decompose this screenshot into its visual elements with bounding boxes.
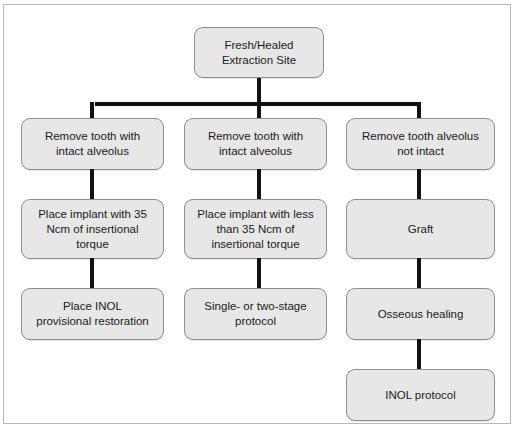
- connector-col1-r1-r2: [90, 169, 94, 201]
- node-label: Remove tooth with intact alveolus: [30, 129, 155, 159]
- node-label: Place implant with less than 35 Ncm of i…: [193, 207, 318, 252]
- node-label: INOL protocol: [355, 388, 486, 403]
- connector-col2-r1-r2: [257, 169, 261, 201]
- node-label: Place INOL provisional restoration: [30, 299, 155, 329]
- node-col1-remove-tooth-intact-alveolus[interactable]: Remove tooth with intact alveolus: [21, 118, 164, 170]
- node-col3-osseous-healing[interactable]: Osseous healing: [346, 288, 495, 340]
- node-label: Osseous healing: [355, 307, 486, 322]
- node-col2-remove-tooth-intact-alveolus[interactable]: Remove tooth with intact alveolus: [184, 118, 327, 170]
- node-fresh-healed-extraction-site[interactable]: Fresh/Healed Extraction Site: [194, 27, 324, 78]
- node-col1-place-implant-35-ncm[interactable]: Place implant with 35 Ncm of insertional…: [21, 199, 164, 259]
- node-col3-remove-tooth-alveolus-not-intact[interactable]: Remove tooth alveolus not intact: [346, 118, 495, 170]
- node-col3-graft[interactable]: Graft: [346, 199, 495, 259]
- node-label: Graft: [355, 222, 486, 237]
- connector-col1-r2-r3: [90, 258, 94, 290]
- node-label: Fresh/Healed Extraction Site: [203, 38, 315, 68]
- node-col1-place-inol-provisional-restoration[interactable]: Place INOL provisional restoration: [21, 288, 164, 340]
- connector-col2-r2-r3: [257, 258, 261, 290]
- node-col2-single-or-two-stage-protocol[interactable]: Single- or two-stage protocol: [184, 288, 327, 340]
- node-label: Single- or two-stage protocol: [193, 299, 318, 329]
- node-label: Remove tooth with intact alveolus: [193, 129, 318, 159]
- node-label: Remove tooth alveolus not intact: [355, 129, 486, 159]
- connector-col3-r3-r4: [417, 339, 421, 371]
- node-col3-inol-protocol[interactable]: INOL protocol: [346, 369, 495, 421]
- connector-col3-r2-r3: [417, 258, 421, 290]
- connector-col3-r1-r2: [417, 169, 421, 201]
- node-col2-place-implant-less-than-35-ncm[interactable]: Place implant with less than 35 Ncm of i…: [184, 199, 327, 259]
- flowchart-diagram: Fresh/Healed Extraction Site Remove toot…: [4, 5, 512, 425]
- node-label: Place implant with 35 Ncm of insertional…: [30, 207, 155, 252]
- figure-frame: Fresh/Healed Extraction Site Remove toot…: [3, 4, 511, 424]
